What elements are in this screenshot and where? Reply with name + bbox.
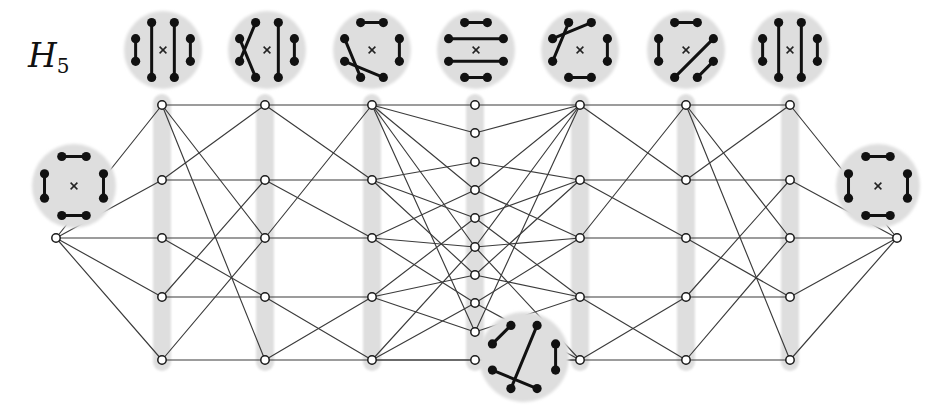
graph-vertex — [158, 293, 166, 301]
graph-vertex — [893, 234, 901, 242]
graph-vertex — [471, 158, 479, 166]
graph-vertex — [786, 176, 794, 184]
graph-vertex — [576, 356, 584, 364]
graph-vertex — [158, 101, 166, 109]
graph-vertex — [261, 101, 269, 109]
graph-vertex — [261, 234, 269, 242]
graph-vertex — [52, 234, 60, 242]
disk-bottom — [479, 312, 569, 402]
graph-vertex — [471, 271, 479, 279]
figure-canvas: H5 — [0, 0, 951, 411]
graph-vertex — [471, 299, 479, 307]
disk-right — [836, 144, 920, 228]
disk-top-5 — [541, 11, 619, 89]
graph-vertex — [471, 214, 479, 222]
graph-vertex — [261, 176, 269, 184]
graph-scene — [0, 0, 951, 411]
graph-vertex — [682, 101, 690, 109]
graph-vertex — [786, 356, 794, 364]
graph-vertex — [682, 234, 690, 242]
graph-vertex — [576, 176, 584, 184]
graph-vertex — [576, 293, 584, 301]
disk-top-3 — [333, 11, 411, 89]
graph-vertex — [158, 234, 166, 242]
disk-top-2 — [228, 11, 306, 89]
disk-top-7 — [751, 11, 829, 89]
disk-top-4 — [437, 11, 515, 89]
graph-vertex — [158, 356, 166, 364]
graph-vertex — [682, 356, 690, 364]
graph-vertex — [576, 101, 584, 109]
graph-vertex — [368, 356, 376, 364]
graph-vertex — [261, 293, 269, 301]
graph-vertex — [471, 328, 479, 336]
graph-vertex — [471, 243, 479, 251]
graph-vertex — [682, 176, 690, 184]
disk-top-1 — [124, 11, 202, 89]
graph-vertex — [471, 356, 479, 364]
graph-vertex — [368, 234, 376, 242]
graph-vertex — [368, 293, 376, 301]
graph-vertex — [576, 234, 584, 242]
graph-vertex — [158, 176, 166, 184]
disk-left — [32, 144, 116, 228]
graph-vertex — [471, 101, 479, 109]
graph-vertex — [786, 234, 794, 242]
disk-top-6 — [647, 11, 725, 89]
graph-vertex — [471, 129, 479, 137]
graph-vertex — [368, 101, 376, 109]
graph-vertex — [786, 101, 794, 109]
graph-vertex — [368, 176, 376, 184]
graph-vertex — [682, 293, 690, 301]
graph-vertex — [471, 186, 479, 194]
graph-vertex — [786, 293, 794, 301]
graph-vertex — [261, 356, 269, 364]
